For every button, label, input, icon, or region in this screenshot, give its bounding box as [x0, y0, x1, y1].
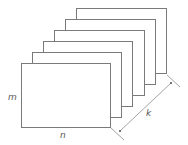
depth-extension-line-bottom: [111, 128, 124, 140]
matrix-sheets: [22, 9, 167, 128]
matrix-sheet-6: [22, 64, 111, 128]
height-label: m: [8, 92, 17, 102]
width-label: n: [60, 130, 66, 140]
depth-label: k: [146, 108, 152, 118]
matrix-stack-diagram: m n k: [0, 0, 188, 145]
